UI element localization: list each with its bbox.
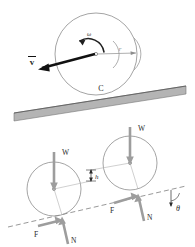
angle-arc bbox=[171, 193, 180, 201]
radius-label: r bbox=[119, 45, 122, 53]
right-friction-label: F bbox=[110, 206, 114, 215]
angle-label: θ bbox=[176, 204, 180, 213]
right-wheel-group: W F N bbox=[91, 124, 157, 222]
physics-figure: ω r v C bbox=[0, 0, 195, 247]
bottom-panel-group: W F N bbox=[8, 124, 186, 245]
right-weight-label: W bbox=[138, 124, 146, 133]
omega-arrowhead bbox=[79, 40, 85, 45]
incline-dashed-line bbox=[8, 186, 186, 227]
right-normal-shaft bbox=[139, 199, 144, 221]
left-weight-label: W bbox=[62, 148, 70, 157]
angular-velocity-arrow bbox=[79, 39, 104, 52]
height-dimension: h bbox=[86, 169, 99, 182]
figure-canvas: ω r v C bbox=[0, 0, 195, 247]
incline-angle: θ bbox=[169, 190, 180, 213]
left-normal-shaft bbox=[63, 222, 68, 244]
left-wheel-group: W F N bbox=[27, 148, 91, 245]
left-center-horizontal-ref bbox=[54, 181, 91, 189]
velocity-vector bbox=[38, 54, 95, 71]
radius-line bbox=[97, 53, 136, 54]
left-friction-shaft bbox=[38, 221, 58, 226]
angle-arrowhead bbox=[169, 203, 173, 207]
radius-arrowhead bbox=[131, 51, 137, 55]
velocity-label-group: v bbox=[28, 57, 36, 68]
top-panel-group: ω r v C bbox=[14, 13, 186, 121]
right-wheel-radius-line bbox=[130, 163, 138, 189]
height-label: h bbox=[95, 173, 99, 181]
omega-label: ω bbox=[87, 31, 91, 37]
left-wheel-radius-line bbox=[54, 189, 62, 215]
left-friction-label: F bbox=[34, 230, 38, 239]
left-weight-arrowhead bbox=[50, 183, 58, 192]
velocity-shaft bbox=[42, 54, 95, 68]
right-friction-shaft bbox=[114, 197, 134, 203]
left-weight-arrow bbox=[50, 152, 58, 191]
radius-dimension bbox=[97, 38, 141, 70]
velocity-label: v bbox=[30, 57, 35, 67]
contact-point-label: C bbox=[98, 84, 103, 93]
right-weight-arrow bbox=[126, 127, 134, 165]
velocity-arrowhead bbox=[38, 64, 50, 72]
right-normal-label: N bbox=[147, 213, 153, 222]
left-normal-label: N bbox=[71, 236, 77, 245]
right-center-horizontal-ref bbox=[91, 163, 130, 170]
